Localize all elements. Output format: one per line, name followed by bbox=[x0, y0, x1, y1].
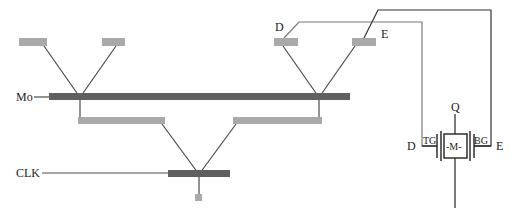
label-bg: BG bbox=[474, 135, 488, 146]
wire-top-left-a bbox=[44, 46, 79, 96]
mo-bar bbox=[49, 93, 350, 100]
label-d-side: D bbox=[407, 139, 416, 153]
dark-bars bbox=[49, 93, 350, 177]
label-q: Q bbox=[451, 100, 460, 114]
label-mo: Mo bbox=[16, 90, 33, 104]
wire-d-bar-to-mo bbox=[283, 46, 318, 96]
label-e-side: E bbox=[496, 139, 503, 153]
wire-mid-left-to-clk bbox=[162, 124, 198, 173]
circuit-diagram: Mo CLK D E Q D E TG BG -M- bbox=[0, 0, 516, 217]
label-e-top: E bbox=[381, 27, 388, 41]
wire-mid-right-to-clk bbox=[200, 124, 236, 173]
clk-bar bbox=[168, 170, 230, 177]
label-d-top: D bbox=[275, 20, 284, 34]
top-bar-d bbox=[274, 38, 298, 46]
top-bar-2 bbox=[102, 38, 125, 46]
top-bar-e bbox=[352, 38, 376, 46]
label-clk: CLK bbox=[16, 166, 40, 180]
output-square bbox=[195, 194, 202, 201]
label-tg: TG bbox=[423, 135, 436, 146]
wire-top-left-b bbox=[81, 46, 116, 96]
label-m: -M- bbox=[446, 141, 462, 152]
mid-bar-right bbox=[233, 117, 322, 124]
top-bar-1 bbox=[19, 38, 47, 46]
mid-bar-left bbox=[78, 117, 165, 124]
wire-e-bar-to-mo bbox=[320, 46, 355, 96]
